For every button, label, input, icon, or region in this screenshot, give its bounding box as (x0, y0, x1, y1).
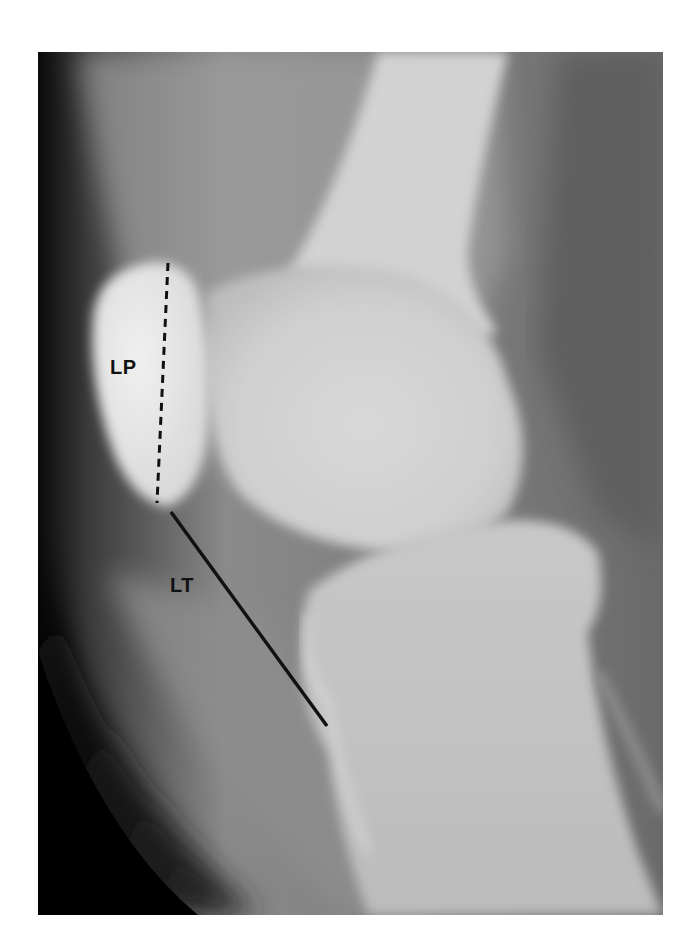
label-lt: LT (170, 575, 194, 595)
radiograph-image (38, 52, 663, 915)
label-lp: LP (110, 357, 137, 377)
knee-xray-illustration (38, 52, 663, 915)
